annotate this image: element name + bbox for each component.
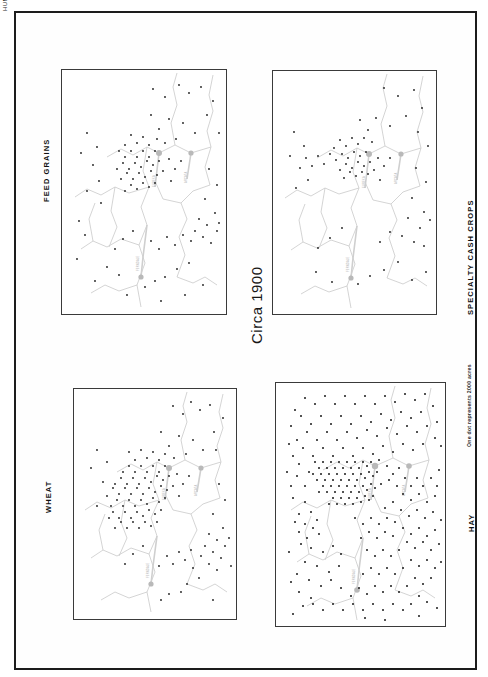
map-panel-wheat[interactable]: EUREKA ARCATA FERNDALE xyxy=(73,388,237,620)
running-head: HUMBOLDT xyxy=(2,0,8,11)
map-graphic-wheat: EUREKA ARCATA FERNDALE xyxy=(73,388,237,620)
svg-text:FERNDALE: FERNDALE xyxy=(346,256,350,272)
map-panel-hay[interactable]: EUREKA ARCATA FERNDALE xyxy=(275,382,446,627)
panel-label-wheat: WHEAT xyxy=(44,481,53,513)
svg-text:ARCATA: ARCATA xyxy=(184,172,188,183)
map-graphic-feed-grains: EUREKA ARCATA FERNDALE xyxy=(61,69,227,315)
svg-text:EUREKA: EUREKA xyxy=(368,488,372,500)
map-panel-feed-grains[interactable]: EUREKA ARCATA FERNDALE xyxy=(61,69,227,315)
svg-text:FERNDALE: FERNDALE xyxy=(146,562,150,578)
svg-text:EUREKA: EUREKA xyxy=(152,175,156,187)
panel-label-specialty-cash-crops: SPECIALTY CASH CROPS xyxy=(466,200,475,316)
svg-text:FERNDALE: FERNDALE xyxy=(136,255,140,271)
scanned-page-sheet: HUMBOLDT Circa 1900 One dot represents 2… xyxy=(14,11,477,670)
page-title: Circa 1900 xyxy=(248,266,265,344)
map-legend-caption: One dot represents 2000 acres xyxy=(466,364,472,447)
map-graphic-hay: EUREKA ARCATA FERNDALE xyxy=(275,382,446,627)
svg-text:FERNDALE: FERNDALE xyxy=(352,568,356,584)
svg-text:ARCATA: ARCATA xyxy=(394,173,398,184)
panel-label-feed-grains: FEED GRAINS xyxy=(42,139,51,202)
map-graphic-specialty-cash-crops: EUREKA ARCATA FERNDALE xyxy=(272,70,437,315)
svg-text:ARCATA: ARCATA xyxy=(194,485,198,496)
map-panel-specialty-cash-crops[interactable]: EUREKA ARCATA FERNDALE xyxy=(272,70,437,315)
panel-label-hay: HAY xyxy=(467,514,476,532)
svg-text:EUREKA: EUREKA xyxy=(362,176,366,188)
